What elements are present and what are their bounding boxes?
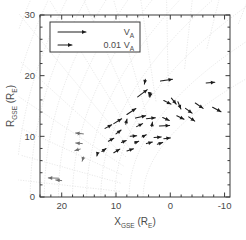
vector-arrow [82,157,86,161]
vector-arrow [143,79,147,84]
vector-arrow [96,152,100,156]
vector-arrow [127,108,136,114]
vector-field-chart: 20100-100102030XGSE (RE)RGSE (RE) VA0.01… [0,0,246,240]
x-axis-title: XGSE (RE) [114,216,155,229]
vector-arrow [171,98,176,104]
vector-arrow [134,141,139,145]
vector-arrow [116,130,121,134]
vector-arrow [76,132,84,136]
vector-arrow [102,149,106,153]
vector-arrow [48,176,58,180]
vector-arrow [76,142,83,146]
vector-arrow [136,115,146,119]
vector-arrow [159,124,169,128]
vector-arrow [146,141,152,145]
y-tick-label: 30 [24,9,35,20]
vector-arrow [186,108,193,113]
vector-arrow [213,107,221,112]
vector-arrow [130,134,137,138]
vector-arrow [138,90,148,97]
y-tick-label: 20 [24,70,35,81]
vector-arrow [105,125,112,129]
vector-arrow [206,81,215,85]
vector-arrow [161,78,173,82]
x-tick-label: 0 [168,200,173,211]
vector-arrow [177,116,184,120]
chart-legend[interactable]: VA0.01 VA [50,22,140,52]
x-tick-label: -10 [218,200,232,211]
vector-arrow [142,135,147,139]
y-tick-label: 10 [24,131,35,142]
y-tick-label: 0 [30,191,35,202]
vector-arrow [75,148,80,152]
vector-arrow [137,124,143,128]
vector-arrow [108,138,113,142]
vector-arrow [178,102,182,109]
chart-root: 20100-100102030XGSE (RE)RGSE (RE) VA0.01… [0,0,246,240]
vector-arrow [164,137,171,141]
x-tick-label: 10 [111,200,122,211]
vector-arrow [146,116,155,120]
vector-arrow [124,119,128,124]
vector-arrows [48,78,221,182]
vector-arrow [154,135,161,139]
vector-arrow [189,117,195,121]
vector-arrow [163,117,170,121]
x-tick-label: 20 [56,200,67,211]
vector-arrow [114,149,120,153]
vector-arrow [157,142,162,146]
vector-arrow [114,119,122,124]
vector-arrow [164,101,171,105]
vector-arrow [127,148,134,152]
vector-arrow [150,122,154,127]
y-axis-title: RGSE (RE) [5,85,18,127]
vector-arrow [195,103,203,108]
vector-arrow [56,179,62,183]
